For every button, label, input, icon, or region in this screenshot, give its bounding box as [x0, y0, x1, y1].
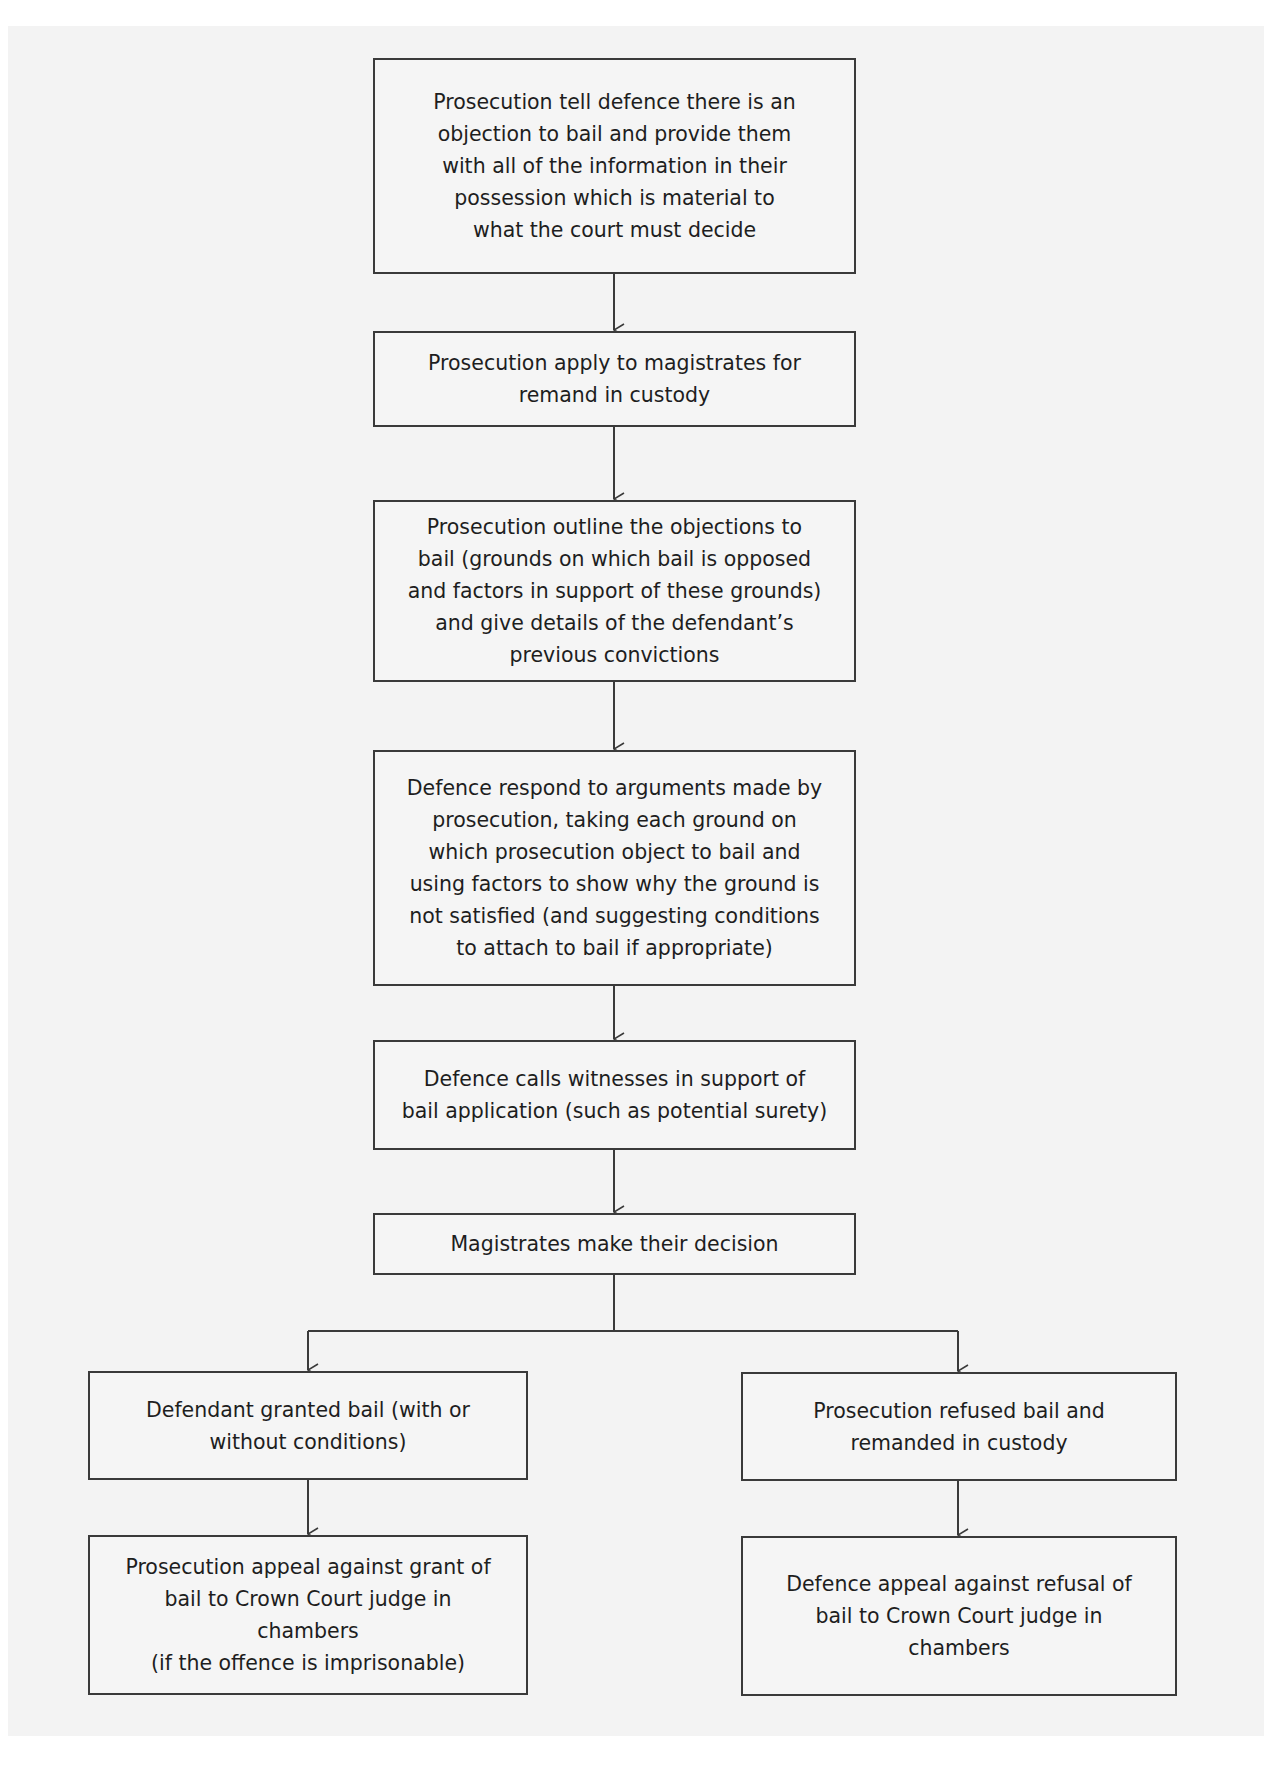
step-text: Defence respond to arguments made by pro…	[407, 772, 822, 964]
step-text: Prosecution apply to magistrates for rem…	[428, 347, 801, 411]
step-text: Prosecution tell defence there is an obj…	[433, 86, 795, 246]
step-defence-respond: Defence respond to arguments made by pro…	[373, 750, 856, 986]
step-prosecution-appeal: Prosecution appeal against grant of bail…	[88, 1535, 528, 1695]
outcome-bail-refused: Prosecution refused bail and remanded in…	[741, 1372, 1177, 1481]
step-defence-appeal: Defence appeal against refusal of bail t…	[741, 1536, 1177, 1696]
step-text: Defence appeal against refusal of bail t…	[786, 1568, 1132, 1664]
step-prosecution-outline-objections: Prosecution outline the objections to ba…	[373, 500, 856, 682]
step-text: Prosecution refused bail and remanded in…	[813, 1395, 1105, 1459]
step-magistrates-decision: Magistrates make their decision	[373, 1213, 856, 1275]
step-defence-call-witnesses: Defence calls witnesses in support of ba…	[373, 1040, 856, 1150]
step-text: Magistrates make their decision	[450, 1228, 778, 1260]
outcome-bail-granted: Defendant granted bail (with or without …	[88, 1371, 528, 1480]
step-text: Prosecution appeal against grant of bail…	[125, 1551, 490, 1679]
step-text: Prosecution outline the objections to ba…	[408, 511, 822, 671]
step-prosecution-notify-objection: Prosecution tell defence there is an obj…	[373, 58, 856, 274]
step-text: Defence calls witnesses in support of ba…	[402, 1063, 827, 1127]
step-prosecution-apply-remand: Prosecution apply to magistrates for rem…	[373, 331, 856, 427]
step-text: Defendant granted bail (with or without …	[146, 1394, 470, 1458]
